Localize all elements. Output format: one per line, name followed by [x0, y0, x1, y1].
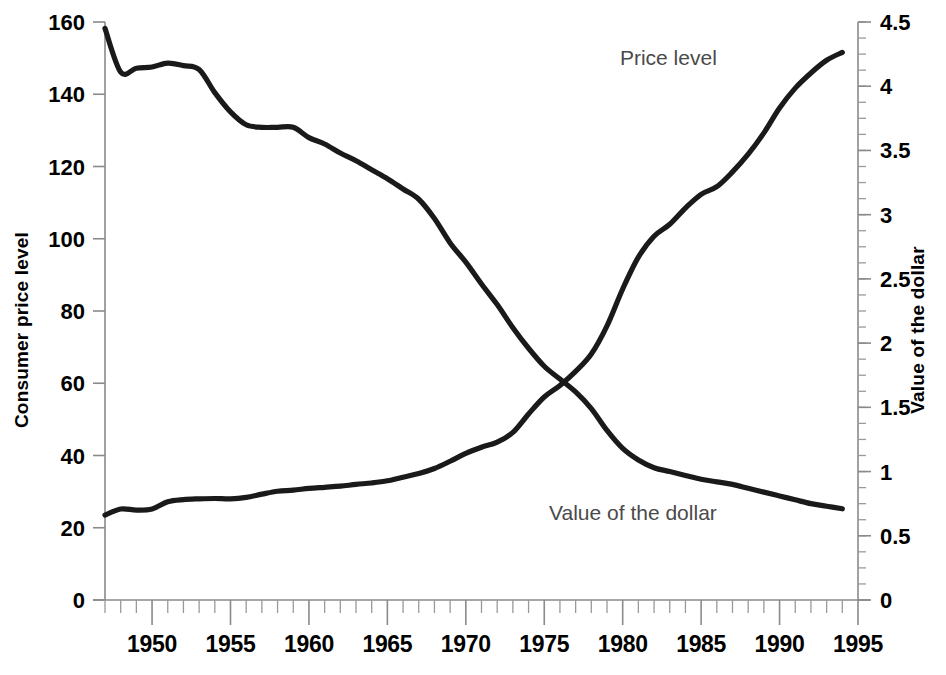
series-label-price-level: Price level [620, 46, 717, 69]
series-label-dollar-value: Value of the dollar [549, 501, 717, 524]
x-tick-label: 1970 [441, 631, 491, 657]
x-tick-label: 1980 [598, 631, 648, 657]
y-tick-label-left: 20 [61, 516, 85, 541]
series-path-value-of-the-dollar [105, 28, 842, 508]
y-tick-label-left: 40 [61, 444, 85, 469]
y-tick-label-left: 140 [48, 82, 85, 107]
x-tick-label: 1990 [755, 631, 805, 657]
chart-figure: Consumer price level Value of the dollar… [0, 0, 946, 675]
y-tick-label-right: 3 [880, 203, 892, 228]
y-tick-label-right: 3.5 [880, 138, 911, 163]
y-tick-label-right: 0.5 [880, 524, 911, 549]
x-tick-label: 1975 [519, 631, 569, 657]
x-tick-label: 1950 [127, 631, 177, 657]
y-tick-label-left: 60 [61, 371, 85, 396]
y-tick-label-right: 4 [880, 74, 893, 99]
y-tick-label-right: 0 [880, 588, 892, 613]
y-tick-label-right: 4.5 [880, 10, 911, 35]
x-tick-label: 1960 [284, 631, 334, 657]
series-layer [105, 28, 842, 515]
x-tick-label: 1995 [833, 631, 883, 657]
y-tick-label-right: 1.5 [880, 395, 911, 420]
y-tick-label-left: 0 [73, 588, 85, 613]
line-chart: Consumer price level Value of the dollar… [0, 0, 946, 675]
y-tick-label-left: 120 [48, 155, 85, 180]
y-tick-label-right: 2.5 [880, 267, 911, 292]
series-path-price-level [105, 52, 842, 515]
x-tick-label: 1965 [362, 631, 412, 657]
y-tick-label-left: 100 [48, 227, 85, 252]
x-tick-label: 1985 [676, 631, 726, 657]
y-tick-label-left: 160 [48, 10, 85, 35]
x-tick-label: 1955 [206, 631, 256, 657]
y-tick-label-left: 80 [61, 299, 85, 324]
y-tick-label-right: 2 [880, 331, 892, 356]
y-tick-label-right: 1 [880, 460, 892, 485]
y-axis-title-left: Consumer price level [11, 232, 32, 428]
